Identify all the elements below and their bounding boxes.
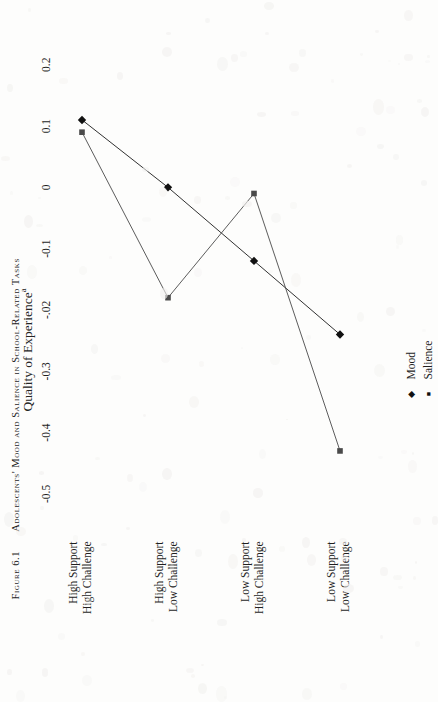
legend-item-salience: Salience <box>422 340 434 399</box>
legend-label: Mood <box>405 352 417 379</box>
data-point-mood <box>336 330 344 338</box>
series-line-mood <box>82 119 340 334</box>
value-axis-tick-label: 0 <box>40 184 52 190</box>
value-axis-title-text: Quality of Experience <box>20 292 35 411</box>
chart-legend: MoodSalience <box>405 0 431 699</box>
chart-container: Quality of Experiencea -0.5-0.4-0.3-.02-… <box>60 0 390 699</box>
series-line-salience <box>82 132 340 451</box>
value-axis-tick-label: -0.1 <box>40 239 52 257</box>
value-axis-tick-label: 0.2 <box>40 57 52 71</box>
square-marker-icon <box>422 388 433 399</box>
value-axis-tick-label: -.02 <box>40 300 52 318</box>
value-axis-ticks: -0.5-0.4-0.3-.02-0.100.10.2 <box>40 0 58 699</box>
value-axis-tick-label: -0.4 <box>40 423 52 441</box>
series-group <box>78 115 344 453</box>
data-point-salience <box>165 294 171 300</box>
value-axis-tick-label: -0.3 <box>40 362 52 380</box>
data-point-salience <box>337 448 343 454</box>
value-axis-title-superscript: a <box>18 288 28 292</box>
value-axis-title: Quality of Experiencea <box>18 0 36 699</box>
value-axis-tick-label: -0.5 <box>40 484 52 502</box>
plot-area <box>60 0 390 699</box>
data-point-salience <box>79 129 85 135</box>
legend-label: Salience <box>422 340 434 379</box>
data-point-salience <box>251 190 257 196</box>
value-axis-tick-label: 0.1 <box>40 118 52 132</box>
legend-item-mood: Mood <box>405 352 417 399</box>
diamond-marker-icon <box>405 388 416 399</box>
